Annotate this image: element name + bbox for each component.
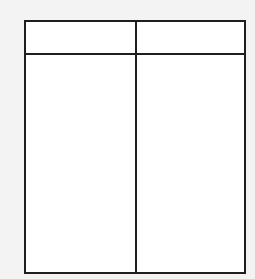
right-column-header: [137, 22, 244, 53]
left-column-body: [26, 55, 135, 272]
left-column-header: [26, 22, 135, 53]
right-column-body: [137, 55, 244, 272]
t-chart-table: [24, 20, 246, 274]
